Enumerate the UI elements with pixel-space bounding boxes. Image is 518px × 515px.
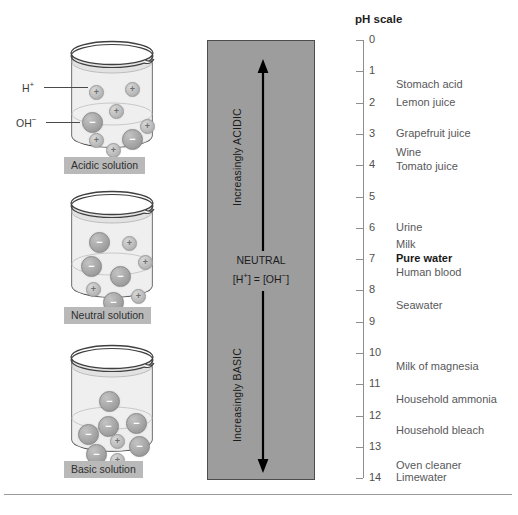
figure-canvas: +++−+−++Acidic solution−+−+−+−+Neutral s…: [0, 0, 518, 515]
ph-tick-label-11: 11: [369, 377, 380, 389]
ph-axis-line: [363, 40, 364, 478]
substance-label: Household bleach: [396, 424, 484, 436]
ph-tick-label-7: 7: [369, 252, 375, 264]
hydroxide-ion: −: [99, 391, 120, 412]
hydrogen-ion: +: [89, 85, 104, 100]
substance-label: Milk: [396, 238, 416, 250]
ph-tick-label-4: 4: [369, 158, 375, 170]
beaker-vessel: +++−+−++: [60, 40, 164, 148]
substance-label: Seawater: [396, 299, 442, 311]
ph-tick-0: [356, 40, 363, 41]
beaker-basic: −−−−+−−+Basic solution: [52, 344, 172, 452]
beaker-caption: Basic solution: [64, 461, 143, 478]
beaker-outline: [60, 40, 164, 152]
beaker-caption: Neutral solution: [64, 307, 151, 324]
ph-tick-6: [356, 228, 363, 229]
ph-tick-4: [356, 165, 363, 166]
substance-label: Milk of magnesia: [396, 360, 479, 372]
substance-label: Stomach acid: [396, 78, 463, 90]
ph-tick-9: [356, 322, 363, 323]
hydroxide-ion: −: [110, 266, 131, 287]
ph-tick-label-5: 5: [369, 190, 375, 202]
ph-tick-5: [356, 197, 363, 198]
hydroxide-ion: −: [81, 256, 102, 277]
ph-tick-label-6: 6: [369, 221, 375, 233]
beaker-outline: [60, 190, 164, 302]
substance-label: Oven cleaner: [396, 459, 461, 471]
neutral-title: NEUTRAL: [208, 253, 314, 268]
hydroxide-ion: −: [78, 424, 99, 445]
ph-tick-label-1: 1: [369, 64, 375, 76]
ph-tick-10: [356, 353, 363, 354]
substance-label: Pure water: [396, 252, 452, 264]
ph-tick-3: [356, 134, 363, 135]
substance-label: Tomato juice: [396, 160, 458, 172]
hydroxide-ion: −: [126, 413, 147, 434]
substance-label: Grapefruit juice: [396, 127, 471, 139]
ph-tick-12: [356, 416, 363, 417]
hydrogen-ion: +: [106, 143, 121, 158]
ph-tick-label-2: 2: [369, 96, 375, 108]
ph-tick-label-9: 9: [369, 315, 375, 327]
substance-label: Limewater: [396, 471, 447, 483]
hydrogen-ion: +: [109, 104, 124, 119]
ph-tick-8: [356, 290, 363, 291]
hydroxide-ion-label-leader: [46, 122, 80, 123]
beaker-caption: Acidic solution: [64, 157, 145, 174]
beaker-vessel: −−−−+−−+: [60, 344, 164, 452]
substance-label: Urine: [396, 221, 422, 233]
hydrogen-ion: +: [89, 133, 104, 148]
beaker-vessel: −+−+−+−+: [60, 190, 164, 298]
increasingly-acidic-label: Increasingly ACIDIC: [231, 97, 243, 217]
hydroxide-ion: −: [82, 112, 103, 133]
ph-tick-label-8: 8: [369, 283, 375, 295]
ph-tick-label-12: 12: [369, 409, 381, 421]
hydrogen-ion: +: [86, 282, 101, 297]
substance-label: Lemon juice: [396, 96, 455, 108]
ph-tick-11: [356, 384, 363, 385]
bottom-divider: [4, 494, 512, 495]
hydrogen-ion: +: [125, 82, 140, 97]
ph-scale-title: pH scale: [355, 13, 402, 25]
ph-tick-label-14: 14: [369, 471, 381, 483]
substance-label: Human blood: [396, 266, 461, 278]
hydrogen-ion-label: H+: [22, 80, 34, 94]
hydrogen-ion: +: [110, 434, 125, 449]
hydroxide-ion: −: [89, 232, 110, 253]
substance-label: Household ammonia: [396, 393, 497, 405]
increasingly-basic-arrow: [256, 291, 270, 473]
ph-tick-14: [356, 478, 363, 479]
ph-tick-7: [356, 259, 363, 260]
hydrogen-ion: +: [138, 255, 153, 270]
neutral-formula: [H+] = [OH−]: [208, 268, 314, 287]
increasingly-acidic-arrow: [256, 59, 270, 251]
hydrogen-ion: +: [131, 289, 146, 304]
substance-label: Wine: [396, 146, 421, 158]
hydrogen-ion: +: [122, 236, 137, 251]
ph-tick-label-3: 3: [369, 127, 375, 139]
hydrogen-ion-label-leader: [44, 87, 88, 88]
ph-direction-column: Increasingly ACIDIC NEUTRAL [H+] = [OH−]…: [207, 40, 315, 480]
ph-tick-2: [356, 103, 363, 104]
ph-tick-1: [356, 71, 363, 72]
increasingly-basic-label: Increasingly BASIC: [231, 335, 243, 455]
hydroxide-ion: −: [122, 129, 143, 150]
hydroxide-ion: −: [129, 436, 150, 457]
hydrogen-ion: +: [140, 119, 155, 134]
neutral-block: NEUTRAL [H+] = [OH−]: [208, 253, 314, 287]
ph-tick-label-0: 0: [369, 33, 375, 45]
beaker-acidic: +++−+−++Acidic solution: [52, 40, 172, 148]
hydroxide-ion-label: OH−: [16, 115, 36, 129]
ph-tick-label-10: 10: [369, 346, 381, 358]
ph-tick-label-13: 13: [369, 440, 381, 452]
ph-tick-13: [356, 447, 363, 448]
beaker-neutral: −+−+−+−+Neutral solution: [52, 190, 172, 298]
